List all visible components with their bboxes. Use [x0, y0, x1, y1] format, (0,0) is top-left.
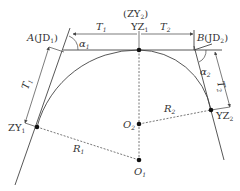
- label-alpha2: α2: [200, 66, 211, 78]
- radius-r1-line: [37, 127, 139, 160]
- point-yz2: [209, 108, 214, 113]
- label-t1-side: T1: [19, 77, 34, 91]
- diagram-svg: A(JD1) B(JD2) (ZY2) YZ1 T1 T2 α1 α2 T1 T…: [0, 0, 240, 191]
- label-r2: R2: [163, 103, 176, 115]
- b-extension-line: [194, 44, 212, 50]
- label-a-jd1: A(JD1): [26, 32, 58, 44]
- label-b-jd2: B(JD2): [196, 32, 228, 44]
- point-yz1: [137, 48, 142, 53]
- label-o2: O2: [123, 119, 135, 131]
- alpha2-arc: [199, 50, 206, 62]
- label-yz2: YZ2: [215, 110, 234, 122]
- label-o1: O1: [134, 166, 146, 178]
- label-alpha1: α1: [79, 38, 90, 50]
- alpha1-arc: [69, 36, 78, 50]
- t2-side-dimension: [215, 52, 230, 107]
- point-o2: [137, 122, 142, 127]
- label-yz1: YZ1: [130, 21, 148, 33]
- compound-curve-diagram: A(JD1) B(JD2) (ZY2) YZ1 T1 T2 α1 α2 T1 T…: [0, 0, 240, 191]
- label-zy1: ZY1: [8, 122, 25, 134]
- label-zy2-top: (ZY2): [123, 8, 148, 20]
- label-t1-top: T1: [96, 21, 107, 33]
- t1-side-ext-top: [49, 47, 64, 52]
- label-r1: R1: [72, 143, 84, 155]
- arc-r1: [37, 50, 139, 127]
- arc-r2: [139, 50, 211, 110]
- point-o1: [137, 158, 142, 163]
- point-zy1: [35, 125, 40, 130]
- label-t2-top: T2: [160, 21, 171, 33]
- label-t2-side: T2: [214, 80, 228, 93]
